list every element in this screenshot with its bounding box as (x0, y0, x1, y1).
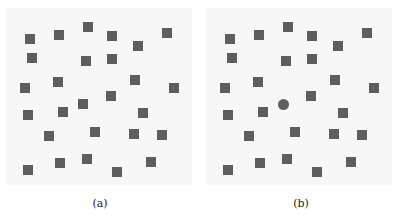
square-marker (83, 22, 93, 32)
square-marker (254, 30, 264, 40)
square-marker (112, 167, 122, 177)
square-marker (253, 77, 263, 87)
square-marker (330, 75, 340, 85)
square-marker (23, 165, 33, 175)
square-marker (346, 157, 356, 167)
square-marker (27, 53, 37, 63)
square-marker (53, 77, 63, 87)
square-marker (55, 158, 65, 168)
square-marker (290, 127, 300, 137)
square-marker (25, 34, 35, 44)
square-marker (58, 107, 68, 117)
square-marker (54, 30, 64, 40)
square-marker (333, 41, 343, 51)
square-marker (369, 83, 379, 93)
square-marker (107, 31, 117, 41)
square-marker (130, 75, 140, 85)
square-marker (146, 157, 156, 167)
panel-b (206, 8, 392, 185)
square-marker (162, 28, 172, 38)
square-marker (227, 53, 237, 63)
caption-a: (a) (80, 197, 120, 210)
square-marker (223, 165, 233, 175)
square-marker (106, 91, 116, 101)
caption-b: (b) (281, 197, 321, 210)
square-marker (78, 99, 88, 109)
square-marker (82, 154, 92, 164)
square-marker (107, 54, 117, 64)
square-marker (281, 56, 291, 66)
square-marker (307, 31, 317, 41)
square-marker (258, 107, 268, 117)
square-marker (23, 110, 33, 120)
square-marker (255, 158, 265, 168)
square-marker (223, 110, 233, 120)
circle-marker (278, 99, 289, 110)
panel-a (6, 8, 192, 185)
square-marker (90, 127, 100, 137)
square-marker (157, 130, 167, 140)
square-marker (225, 34, 235, 44)
square-marker (312, 167, 322, 177)
square-marker (283, 22, 293, 32)
square-marker (220, 83, 230, 93)
square-marker (306, 91, 316, 101)
square-marker (81, 56, 91, 66)
square-marker (20, 83, 30, 93)
square-marker (307, 54, 317, 64)
square-marker (357, 130, 367, 140)
square-marker (44, 131, 54, 141)
square-marker (362, 28, 372, 38)
square-marker (282, 154, 292, 164)
square-marker (244, 131, 254, 141)
square-marker (129, 129, 139, 139)
square-marker (338, 108, 348, 118)
square-marker (329, 129, 339, 139)
square-marker (138, 108, 148, 118)
square-marker (169, 83, 179, 93)
square-marker (133, 41, 143, 51)
